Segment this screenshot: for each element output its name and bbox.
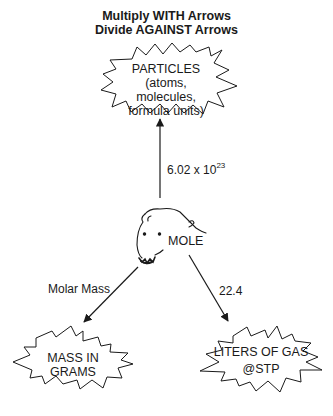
particles-line-1: PARTICLES [116, 62, 216, 76]
avogadro-exponent: 23 [216, 161, 225, 170]
mass-label: MASS IN GRAMS [23, 351, 123, 379]
avogadro-label: 6.02 x 1023 [167, 163, 225, 177]
molar-mass-label: Molar Mass [48, 282, 110, 296]
gas-line-1: LITERS OF GAS [211, 345, 311, 359]
avogadro-base: 6.02 x 10 [167, 163, 216, 177]
mole-label: MOLE [168, 234, 203, 248]
gas-label: LITERS OF GAS @STP [211, 345, 311, 376]
molar-volume-label: 22.4 [219, 284, 242, 298]
particles-label: PARTICLES (atoms, molecules, formula uni… [116, 62, 216, 118]
particles-line-2: (atoms, molecules, [116, 76, 216, 104]
gas-line-2: @STP [211, 362, 311, 376]
particles-line-3: formula units) [116, 104, 216, 118]
